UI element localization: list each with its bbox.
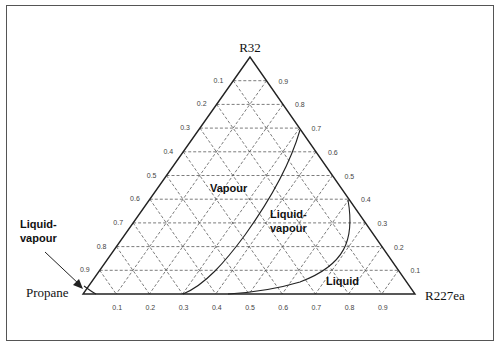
region-label-liquid-vapour-line2: vapour bbox=[270, 222, 307, 234]
tick-label: 0.4 bbox=[163, 148, 173, 155]
region-label-outer-liquid-vapour-line1: Liquid- bbox=[20, 218, 57, 230]
vertex-label-top: R32 bbox=[239, 40, 261, 55]
tick-label: 0.1 bbox=[214, 77, 224, 84]
vertex-label-right: R227ea bbox=[425, 288, 465, 303]
tick-label: 0.6 bbox=[278, 304, 288, 311]
vertex-label-left: Propane bbox=[26, 285, 69, 300]
tick-label: 0.5 bbox=[147, 172, 157, 179]
tick-label: 0.5 bbox=[245, 304, 255, 311]
tick-label: 0.2 bbox=[394, 244, 404, 251]
region-label-liquid: Liquid bbox=[326, 275, 359, 287]
ternary-diagram: R32 Propane R227ea 0.10.20.30.40.50.60.7… bbox=[0, 0, 499, 347]
region-label-outer-liquid-vapour-line2: vapour bbox=[20, 232, 57, 244]
tick-label: 0.3 bbox=[378, 220, 388, 227]
grid-line bbox=[249, 176, 333, 295]
tick-label: 0.4 bbox=[361, 196, 371, 203]
left-edge-ticks: 0.10.20.30.40.50.60.70.80.9 bbox=[80, 77, 223, 274]
tick-label: 0.3 bbox=[180, 124, 190, 131]
tick-label: 0.6 bbox=[130, 195, 140, 202]
bottom-edge-ticks: 0.10.20.30.40.50.60.70.80.9 bbox=[112, 304, 387, 311]
tick-label: 0.8 bbox=[97, 243, 107, 250]
tick-label: 0.1 bbox=[411, 267, 421, 274]
tick-label: 0.7 bbox=[113, 219, 123, 226]
grid-line bbox=[100, 270, 117, 294]
tick-label: 0.3 bbox=[179, 304, 189, 311]
tick-label: 0.1 bbox=[112, 304, 122, 311]
tick-label: 0.4 bbox=[212, 304, 222, 311]
region-label-liquid-vapour-line1: Liquid- bbox=[270, 208, 307, 220]
tick-label: 0.8 bbox=[295, 101, 305, 108]
tick-label: 0.8 bbox=[345, 304, 355, 311]
arrow-line bbox=[45, 252, 80, 285]
tick-label: 0.9 bbox=[378, 304, 388, 311]
grid-line bbox=[133, 223, 183, 294]
tick-label: 0.7 bbox=[312, 304, 322, 311]
tick-label: 0.7 bbox=[312, 125, 322, 132]
tick-label: 0.5 bbox=[345, 173, 355, 180]
tick-label: 0.2 bbox=[146, 304, 156, 311]
grid-line bbox=[382, 270, 399, 294]
tick-label: 0.2 bbox=[197, 100, 207, 107]
tick-label: 0.6 bbox=[328, 149, 338, 156]
region-label-vapour: Vapour bbox=[210, 182, 248, 194]
tick-label: 0.9 bbox=[279, 78, 289, 85]
tick-label: 0.9 bbox=[80, 266, 90, 273]
grid-lines bbox=[100, 81, 399, 294]
grid-line bbox=[233, 81, 381, 294]
